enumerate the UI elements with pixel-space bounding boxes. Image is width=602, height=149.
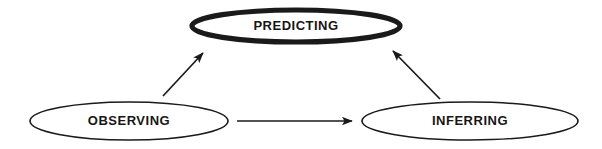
arrow-shaft-inferring-predicting	[393, 51, 440, 99]
inferring-label: INFERRING	[432, 113, 508, 128]
node-predicting[interactable]: PREDICTING	[192, 10, 400, 42]
diagram-canvas: PREDICTING OBSERVING INFERRING	[0, 0, 602, 149]
predicting-label: PREDICTING	[253, 18, 338, 33]
connector-observing-to-predicting	[163, 53, 203, 96]
node-observing[interactable]: OBSERVING	[30, 102, 228, 140]
node-inferring[interactable]: INFERRING	[362, 102, 578, 140]
observing-label: OBSERVING	[88, 113, 170, 128]
connector-inferring-to-predicting	[393, 51, 440, 99]
process-skills-diagram: PREDICTING OBSERVING INFERRING	[0, 0, 602, 149]
arrow-shaft-observing-predicting	[163, 53, 203, 96]
